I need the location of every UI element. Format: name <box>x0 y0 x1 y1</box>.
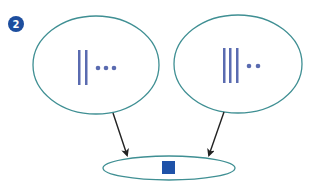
right-set <box>174 15 302 113</box>
left-arrow-icon <box>113 113 127 155</box>
right-dots <box>247 64 261 69</box>
left-tally-bars <box>78 50 88 85</box>
square-icon <box>162 161 175 174</box>
left-dots <box>96 66 117 71</box>
result-set <box>103 156 235 180</box>
right-arrow-icon <box>209 112 224 155</box>
diagram-canvas: 2 <box>0 0 309 193</box>
step-badge: 2 <box>8 16 24 32</box>
right-tally-bars <box>223 48 239 83</box>
left-set <box>33 16 159 114</box>
step-number: 2 <box>13 19 20 30</box>
